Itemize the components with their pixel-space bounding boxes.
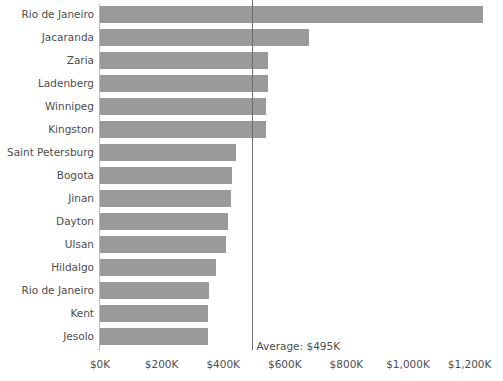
- category-label: Rio de Janeiro: [0, 281, 94, 300]
- bar[interactable]: [100, 236, 226, 253]
- x-axis-tick-label: $1,200K: [448, 358, 492, 370]
- bar-row: Winnipeg: [100, 96, 485, 119]
- bar-row: Ulsan: [100, 234, 485, 257]
- bar-row: Zaria: [100, 50, 485, 73]
- bar[interactable]: [100, 144, 236, 161]
- bar-row: Rio de Janeiro: [100, 280, 485, 303]
- bar-row: Jinan: [100, 188, 485, 211]
- category-label: Ulsan: [0, 235, 94, 254]
- x-axis-tick-label: $1,000K: [386, 358, 430, 370]
- category-label: Kingston: [0, 120, 94, 139]
- bar-row: Ladenberg: [100, 73, 485, 96]
- plot-area: Rio de JaneiroJacarandaZariaLadenbergWin…: [100, 4, 485, 350]
- bar[interactable]: [100, 29, 309, 46]
- bar[interactable]: [100, 190, 231, 207]
- x-axis-tick-label: $400K: [206, 358, 240, 370]
- bar-row: Saint Petersburg: [100, 142, 485, 165]
- bar[interactable]: [100, 52, 268, 69]
- average-reference-label: Average: $495K: [256, 340, 340, 352]
- bar-row: Dayton: [100, 211, 485, 234]
- bar-row: Hildalgo: [100, 257, 485, 280]
- category-label: Kent: [0, 304, 94, 323]
- category-label: Jesolo: [0, 327, 94, 346]
- category-label: Dayton: [0, 212, 94, 231]
- bar-row: Kingston: [100, 119, 485, 142]
- average-reference-line: [252, 0, 253, 350]
- category-label: Jinan: [0, 189, 94, 208]
- category-label: Jacaranda: [0, 28, 94, 47]
- category-label: Rio de Janeiro: [0, 5, 94, 24]
- x-axis: $0K$200K$400K$600K$800K$1,000K$1,200K: [0, 352, 503, 381]
- bar[interactable]: [100, 121, 266, 138]
- bar[interactable]: [100, 259, 216, 276]
- category-label: Saint Petersburg: [0, 143, 94, 162]
- x-axis-tick-label: $800K: [330, 358, 364, 370]
- category-label: Zaria: [0, 51, 94, 70]
- bar[interactable]: [100, 282, 209, 299]
- bar[interactable]: [100, 213, 228, 230]
- x-axis-tick-label: $600K: [268, 358, 302, 370]
- category-label: Bogota: [0, 166, 94, 185]
- category-label: Winnipeg: [0, 97, 94, 116]
- x-axis-tick-label: $200K: [145, 358, 179, 370]
- bar[interactable]: [100, 328, 208, 345]
- bar-row: Jacaranda: [100, 27, 485, 50]
- bar-row: Rio de Janeiro: [100, 4, 485, 27]
- x-axis-tick-label: $0K: [90, 358, 110, 370]
- bar[interactable]: [100, 305, 208, 322]
- bar-chart: Rio de JaneiroJacarandaZariaLadenbergWin…: [0, 0, 503, 381]
- bar[interactable]: [100, 98, 266, 115]
- bar[interactable]: [100, 75, 268, 92]
- bar-row: Bogota: [100, 165, 485, 188]
- category-label: Hildalgo: [0, 258, 94, 277]
- category-label: Ladenberg: [0, 74, 94, 93]
- bar[interactable]: [100, 6, 483, 23]
- bar[interactable]: [100, 167, 232, 184]
- bar-row: Kent: [100, 303, 485, 326]
